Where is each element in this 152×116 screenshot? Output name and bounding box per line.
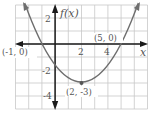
tick-label-y-2: 2 <box>45 14 51 24</box>
tick-label-x-2: 2 <box>78 47 84 57</box>
vertex-marker <box>80 81 84 85</box>
x-axis-label: x <box>140 46 147 59</box>
tick-label-y-minus-4: -4 <box>43 91 52 101</box>
point-label-vertex: (2, -3) <box>66 87 92 97</box>
curve-arrow-left <box>23 2 29 11</box>
point-label-right-root: (5, 0) <box>94 33 117 43</box>
y-axis-label: f(x) <box>59 7 79 20</box>
point-label-left-root: (-1, 0) <box>2 47 28 57</box>
curve-arrow-right <box>134 2 140 11</box>
tick-label-y-minus-2: -2 <box>42 66 51 76</box>
tick-label-x-4: 4 <box>104 47 110 57</box>
parabola-chart: f(x) x 2 4 2 -2 -4 (-1, 0) (5, 0) (2, -3… <box>0 0 152 116</box>
